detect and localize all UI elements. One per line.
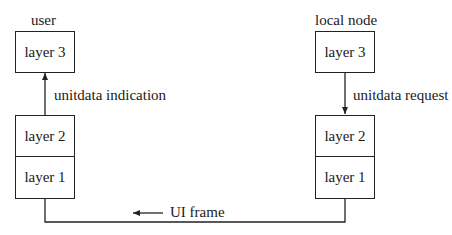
left-layer-1-box: layer 1 — [16, 157, 74, 198]
left-primitive-label: unitdata indication — [54, 87, 166, 104]
left-layer-3-box: layer 3 — [15, 31, 75, 73]
left-layer-3-label: layer 3 — [24, 44, 65, 61]
right-primitive-label: unitdata request — [353, 87, 448, 104]
right-layer-2-box: layer 2 — [316, 116, 374, 157]
left-layer-1-label: layer 1 — [24, 169, 65, 186]
right-node-title: local node — [315, 12, 377, 29]
right-layer-3-box: layer 3 — [315, 31, 375, 73]
right-layer-1-box: layer 1 — [316, 157, 374, 198]
right-layer-1-label: layer 1 — [324, 169, 365, 186]
left-node-title: user — [31, 12, 56, 29]
right-layer-2-label: layer 2 — [324, 128, 365, 145]
ui-frame-label: UI frame — [170, 204, 225, 221]
right-layer-3-label: layer 3 — [324, 44, 365, 61]
left-layer-2-label: layer 2 — [24, 128, 65, 145]
right-lower-stack: layer 2 layer 1 — [315, 115, 375, 199]
left-layer-2-box: layer 2 — [16, 116, 74, 157]
left-lower-stack: layer 2 layer 1 — [15, 115, 75, 199]
protocol-diagram: user layer 3 unitdata indication layer 2… — [0, 0, 452, 235]
